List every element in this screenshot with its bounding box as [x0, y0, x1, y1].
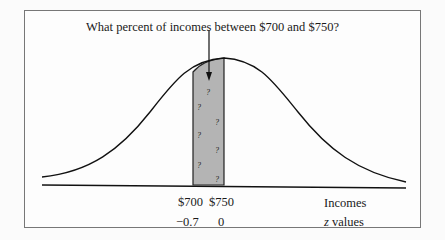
z-values-label: z values — [324, 215, 364, 230]
svg-text:?: ? — [197, 131, 201, 140]
svg-text:?: ? — [215, 175, 219, 184]
svg-text:?: ? — [206, 88, 210, 97]
tick-700: $700 — [178, 195, 203, 210]
svg-text:?: ? — [215, 146, 219, 155]
incomes-label: Incomes — [324, 196, 366, 211]
svg-text:?: ? — [197, 103, 201, 112]
svg-text:?: ? — [215, 118, 219, 127]
z-values-text: values — [329, 215, 364, 229]
svg-text:?: ? — [197, 161, 201, 170]
z-tick-neg07: −0.7 — [176, 215, 199, 230]
question-title: What percent of incomes between $700 and… — [86, 20, 339, 35]
z-tick-0: 0 — [218, 215, 224, 230]
tick-750: $750 — [209, 195, 234, 210]
